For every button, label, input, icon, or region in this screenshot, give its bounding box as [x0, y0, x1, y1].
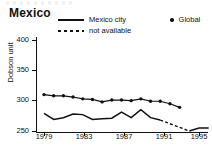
- data-point: [110, 98, 113, 101]
- data-point: [81, 97, 84, 100]
- series-mexico-city-resumed-line: [189, 128, 208, 131]
- data-point: [178, 106, 181, 109]
- data-point: [42, 93, 45, 96]
- data-point: [129, 99, 132, 102]
- data-point: [159, 100, 162, 103]
- series-not-available-line: [160, 120, 189, 131]
- data-point: [139, 97, 142, 100]
- series-mexico-city-line: [44, 110, 160, 120]
- data-point: [71, 95, 74, 98]
- data-point: [52, 94, 55, 97]
- data-point: [62, 94, 65, 97]
- data-point: [149, 100, 152, 103]
- data-point: [100, 100, 103, 103]
- plot-area: [0, 0, 212, 152]
- series-global-markers: [42, 93, 181, 109]
- data-point: [168, 102, 171, 105]
- data-point: [91, 98, 94, 101]
- series-canvas: [0, 0, 212, 152]
- chart-root: Mexico Mexico city not available Global …: [0, 0, 212, 152]
- data-point: [120, 98, 123, 101]
